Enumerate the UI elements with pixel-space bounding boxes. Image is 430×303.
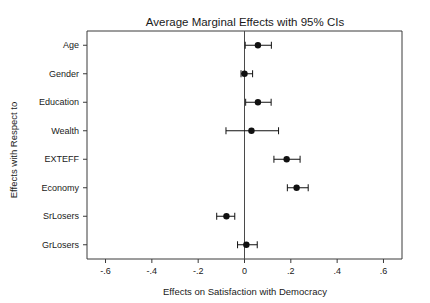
x-tick-label: .6 (380, 266, 388, 276)
estimate-marker (248, 128, 254, 134)
marginal-effects-plot: Average Marginal Effects with 95% CIs Ef… (0, 0, 430, 303)
y-tick-label-exteff: EXTEFF (44, 154, 79, 164)
chart-title: Average Marginal Effects with 95% CIs (146, 16, 345, 28)
estimate-marker (293, 185, 299, 191)
estimate-marker (243, 242, 249, 248)
y-tick-label-gender: Gender (49, 69, 79, 79)
x-axis-title: Effects on Satisfaction with Democracy (163, 286, 327, 297)
x-tick-label: -.4 (147, 266, 158, 276)
x-tick-label: 0 (242, 266, 247, 276)
x-tick-label: -.2 (193, 266, 204, 276)
y-tick-label-age: Age (63, 40, 79, 50)
y-tick-label-wealth: Wealth (51, 126, 79, 136)
x-tick-label: -.6 (100, 266, 111, 276)
y-tick-label-srlosers: SrLosers (43, 211, 80, 221)
estimate-marker (223, 213, 229, 219)
estimate-marker (283, 156, 289, 162)
estimate-marker (241, 71, 247, 77)
y-axis-title: Effects with Respect to (8, 102, 19, 198)
y-tick-label-education: Education (39, 97, 79, 107)
x-tick-label: .4 (333, 266, 341, 276)
chart-page: Average Marginal Effects with 95% CIs Ef… (0, 0, 430, 303)
y-tick-label-economy: Economy (41, 183, 79, 193)
x-tick-label: .2 (287, 266, 295, 276)
estimate-marker (255, 99, 261, 105)
y-tick-label-grlosers: GrLosers (42, 240, 80, 250)
estimate-marker (255, 42, 261, 48)
